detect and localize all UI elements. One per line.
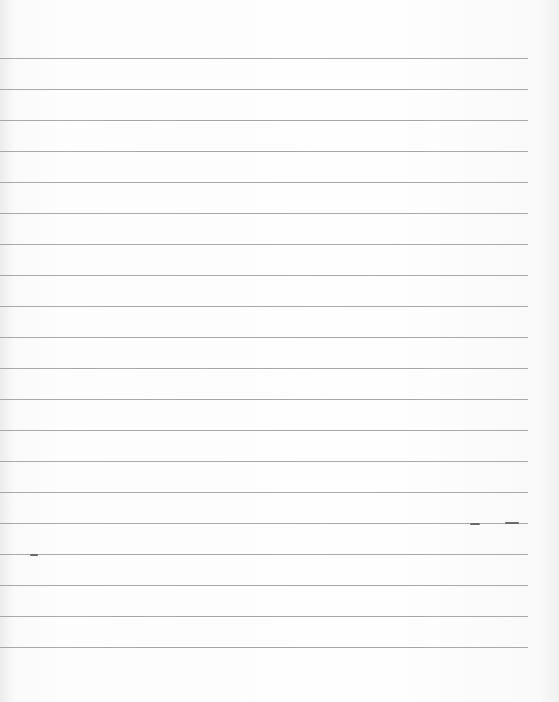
- ruled-line: [0, 182, 528, 183]
- ruled-line: [0, 492, 528, 493]
- ink-smudge: [470, 523, 480, 525]
- ruled-line: [0, 58, 528, 59]
- ruled-line: [0, 368, 528, 369]
- ruled-line: [0, 89, 528, 90]
- ruled-line: [0, 151, 528, 152]
- lined-paper: [0, 0, 559, 702]
- ruled-line: [0, 244, 528, 245]
- ruled-line: [0, 585, 528, 586]
- ruled-line: [0, 213, 528, 214]
- ruled-line: [0, 647, 528, 648]
- ink-smudge: [30, 554, 38, 556]
- ruled-line: [0, 337, 528, 338]
- ruled-line: [0, 399, 528, 400]
- ruled-line: [0, 461, 528, 462]
- ruled-line: [0, 120, 528, 121]
- ink-smudge: [505, 522, 519, 524]
- ruled-line: [0, 306, 528, 307]
- ruled-line: [0, 430, 528, 431]
- ruled-line: [0, 554, 528, 555]
- ruled-line: [0, 616, 528, 617]
- ruled-line: [0, 275, 528, 276]
- ruled-line: [0, 523, 528, 524]
